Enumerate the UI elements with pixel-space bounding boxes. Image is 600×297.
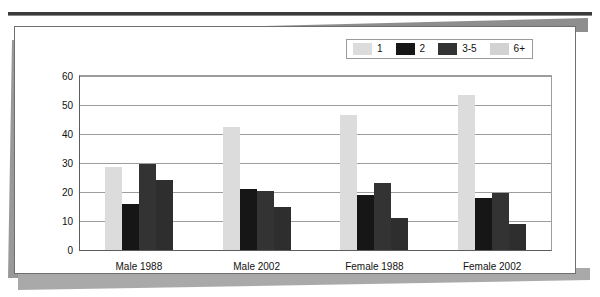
y-axis-tick-label: 10 [62, 216, 73, 227]
bar [492, 193, 509, 250]
x-axis-label: Male 1988 [80, 261, 198, 272]
bar-group: Female 2002 [433, 76, 551, 250]
bar [458, 95, 475, 250]
y-axis-tick-label: 40 [62, 129, 73, 140]
bar [340, 115, 357, 250]
plot-area: 6050403020100 Male 1988Male 2002Female 1… [79, 75, 552, 251]
x-axis-label: Female 1988 [316, 261, 434, 272]
legend-item-1: 1 [353, 43, 383, 55]
legend-swatch-icon [353, 43, 372, 55]
bar [509, 224, 526, 250]
bar [223, 127, 240, 250]
bar [105, 167, 122, 250]
bar [357, 195, 374, 250]
legend-item-2: 2 [396, 43, 426, 55]
bar [475, 198, 492, 250]
bar [139, 164, 156, 250]
bar [122, 204, 139, 250]
bar-groups: Male 1988Male 2002Female 1988Female 2002 [80, 76, 551, 250]
legend-swatch-icon [438, 43, 457, 55]
y-axis-tick-label: 50 [62, 100, 73, 111]
bar-group: Female 1988 [316, 76, 434, 250]
y-axis-tick-label: 20 [62, 187, 73, 198]
x-axis-label: Male 2002 [198, 261, 316, 272]
bar [274, 207, 291, 251]
chart-legend: 123-56+ [346, 39, 533, 59]
legend-label: 2 [420, 43, 426, 55]
bar [374, 183, 391, 250]
bar-group: Male 1988 [80, 76, 198, 250]
y-axis-tick-label: 30 [62, 158, 73, 169]
bar [257, 191, 274, 250]
bar [156, 180, 173, 250]
top-rule-shadow [8, 15, 592, 16]
cut-off-title [10, 0, 430, 9]
x-axis-label: Female 2002 [433, 261, 551, 272]
bar [391, 218, 408, 250]
legend-label: 6+ [514, 43, 525, 55]
legend-item-6: 6+ [490, 43, 525, 55]
legend-swatch-icon [490, 43, 509, 55]
bar [240, 189, 257, 250]
legend-label: 1 [377, 43, 383, 55]
legend-item-35: 3-5 [438, 43, 476, 55]
bar-group: Male 2002 [198, 76, 316, 250]
chart-card: 123-56+ 6050403020100 Male 1988Male 2002… [14, 26, 576, 274]
legend-label: 3-5 [462, 43, 476, 55]
y-axis-tick-label: 60 [62, 71, 73, 82]
y-axis-tick-label: 0 [67, 245, 73, 256]
legend-swatch-icon [396, 43, 415, 55]
